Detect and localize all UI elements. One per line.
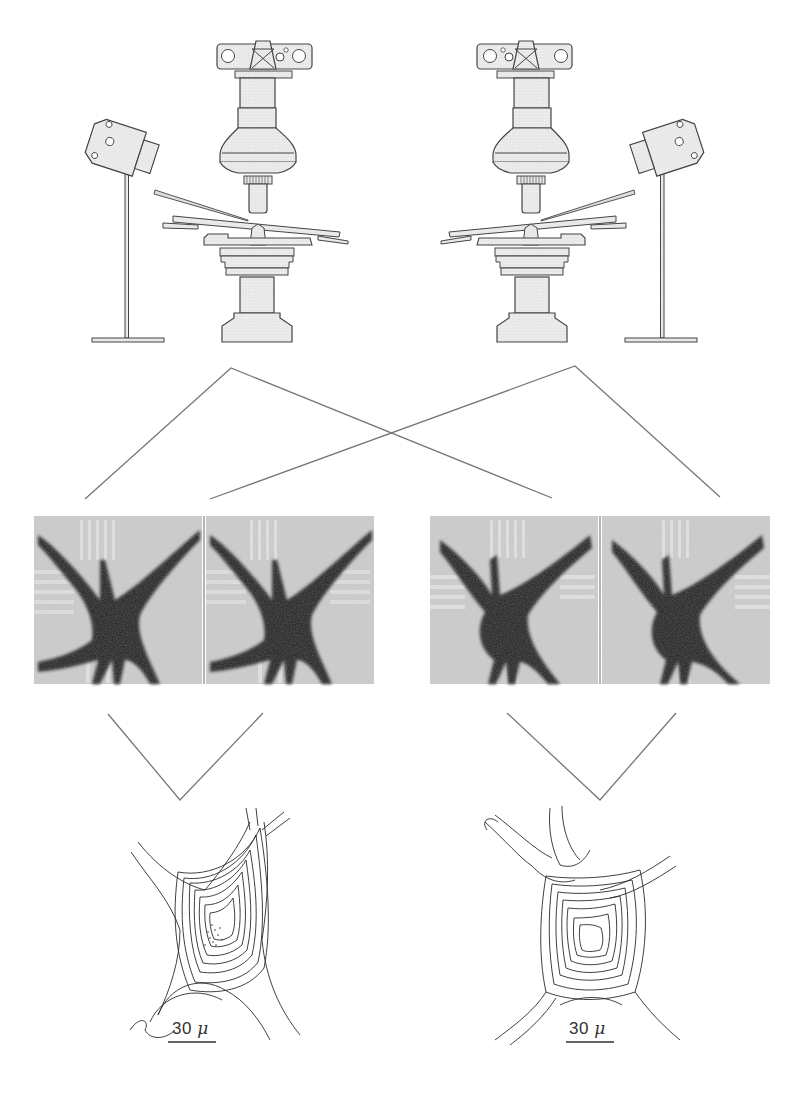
scale-unit-left: μ [197, 1018, 209, 1038]
figure-canvas [0, 0, 789, 1099]
contour-map-right [485, 806, 680, 1045]
scale-label-right: 30 μ [569, 1018, 606, 1039]
microscope-left [83, 41, 348, 342]
scale-value-right: 30 [569, 1019, 589, 1038]
microscope-right [441, 41, 706, 342]
stereo-pair-right [430, 516, 770, 684]
scale-unit-right: μ [594, 1018, 606, 1038]
connector-lines-top [85, 366, 720, 499]
scale-label-left: 30 μ [172, 1018, 209, 1039]
stereo-pair-left [34, 516, 374, 684]
connector-lines-bottom [108, 713, 676, 800]
contour-map-left [130, 808, 300, 1040]
scale-value-left: 30 [172, 1019, 192, 1038]
